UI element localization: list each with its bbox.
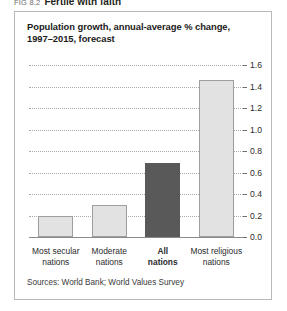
bar-moderate-nations: [92, 205, 127, 237]
y-axis-label: 0.0: [250, 233, 262, 242]
x-axis-category-label: Moderatenations: [79, 246, 141, 267]
x-axis-category-label: Most secularnations: [25, 246, 87, 267]
y-axis-label: 1.0: [250, 126, 262, 135]
figure-caption: FIG 8.2Fertile with faith: [14, 0, 121, 7]
category-label-line: Moderate: [79, 246, 141, 257]
figure-number: FIG 8.2: [14, 0, 40, 7]
y-axis-tick: [243, 216, 247, 217]
x-axis-category-label: Most religiousnations: [186, 246, 248, 267]
y-axis-label: 1.4: [250, 83, 262, 92]
y-axis-label: 0.4: [250, 190, 262, 199]
y-axis-label: 0.2: [250, 212, 262, 221]
category-label-line: All: [132, 246, 194, 257]
figure-title: Fertile with faith: [44, 0, 121, 7]
plot-area: 0.00.20.40.60.81.01.21.41.6Most secularn…: [29, 65, 243, 237]
y-axis-label: 0.8: [250, 147, 262, 156]
y-axis-tick: [243, 173, 247, 174]
chart-title: Population growth, annual-average % chan…: [27, 21, 255, 46]
x-axis-category-label: Allnations: [132, 246, 194, 267]
y-axis-tick: [243, 87, 247, 88]
axis-baseline: [29, 237, 243, 238]
y-axis-tick: [243, 130, 247, 131]
bar-most-secular-nations: [38, 216, 73, 238]
bar-all-nations: [145, 163, 180, 237]
category-label-line: nations: [25, 257, 87, 268]
y-axis-label: 1.6: [250, 61, 262, 70]
chart-source: Sources: World Bank; World Values Survey: [27, 278, 184, 287]
y-axis-tick: [243, 237, 247, 238]
category-label-line: Most religious: [186, 246, 248, 257]
category-label-line: nations: [186, 257, 248, 268]
category-label-line: nations: [132, 257, 194, 268]
gridline: [29, 65, 243, 66]
category-label-line: nations: [79, 257, 141, 268]
category-label-line: Most secular: [25, 246, 87, 257]
y-axis-tick: [243, 151, 247, 152]
y-axis-tick: [243, 108, 247, 109]
bar-most-religious-nations: [199, 80, 234, 237]
chart-panel: Population growth, annual-average % chan…: [14, 11, 272, 300]
y-axis-tick: [243, 194, 247, 195]
y-axis-label: 0.6: [250, 169, 262, 178]
y-axis-tick: [243, 65, 247, 66]
y-axis-label: 1.2: [250, 104, 262, 113]
